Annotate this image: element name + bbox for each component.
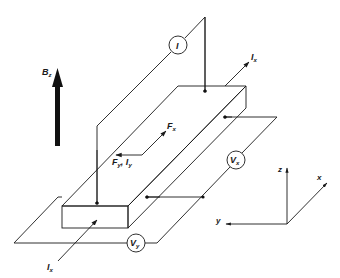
x-axis-arrow-icon: [287, 183, 327, 224]
sample-bar: [62, 17, 246, 228]
current-in-arrow-icon: [58, 220, 97, 261]
current-circuit: [95, 17, 206, 205]
voltmeter-x: Vx: [227, 151, 245, 169]
svg-text:Vy: Vy: [130, 238, 140, 249]
force-x-arrow-icon: [142, 131, 166, 155]
y-axis-label: y: [215, 216, 221, 225]
current-out-label: Ix: [251, 52, 258, 63]
coordinate-axes: z x y: [215, 165, 327, 225]
hall-effect-diagram: Bz I Vy Vx: [0, 0, 340, 278]
force-y-label: Fy, Iy: [112, 157, 132, 168]
current-meter: I: [169, 36, 187, 54]
svg-text:Vx: Vx: [230, 155, 240, 166]
magnetic-field-label: Bz: [42, 67, 52, 78]
current-in-label: Ix: [47, 262, 54, 273]
current-meter-label: I: [176, 41, 179, 51]
magnetic-field-arrow: [52, 68, 63, 146]
x-axis-label: x: [316, 173, 322, 182]
voltmeter-y: Vy: [127, 234, 145, 252]
force-x-label: Fx: [167, 121, 177, 132]
z-axis-label: z: [277, 165, 282, 174]
current-out-arrow-icon: [225, 62, 249, 86]
